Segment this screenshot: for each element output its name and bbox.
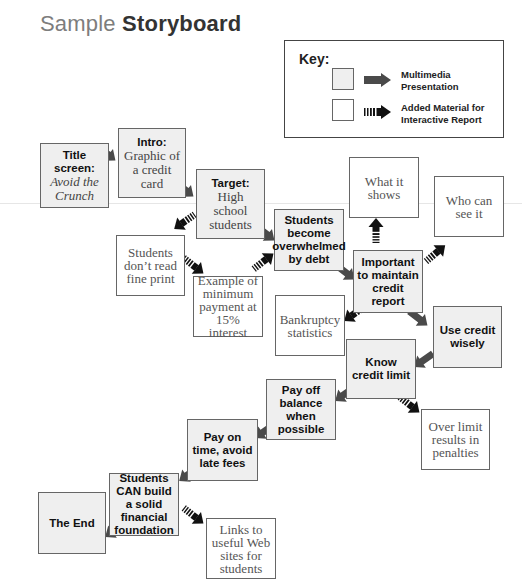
box-what-it-shows: What it shows xyxy=(349,157,419,218)
box-pay-on-time: Pay on time, avoid late fees xyxy=(187,419,258,481)
box-example: Example of minimum payment at 15% intere… xyxy=(193,276,263,337)
box-use-credit: Use credit wisely xyxy=(433,306,502,368)
box-overwhelmed: Students become overwhelmed by debt xyxy=(274,209,344,271)
box-know-limit: Know credit limit xyxy=(346,339,416,399)
box-who-can-see: Who can see it xyxy=(434,176,504,237)
box-important: Important to maintain credit report xyxy=(353,250,423,313)
arrow-important-to-what-it-shows xyxy=(369,218,384,243)
box-over-limit: Over limit results in penalties xyxy=(421,409,490,470)
arrow-important-to-who-can-see xyxy=(421,240,450,268)
box-target: Target:High school students xyxy=(196,169,265,239)
box-can-build: Students CAN build a solid financial fou… xyxy=(109,473,179,536)
arrow-can-build-to-links xyxy=(179,502,208,529)
arrow-target-to-dont-read xyxy=(170,208,199,235)
box-the-end: The End xyxy=(38,492,106,554)
box-bankruptcy: Bankruptcy statistics xyxy=(275,295,345,356)
box-dont-read: Students don’t read fine print xyxy=(116,235,185,296)
box-title-screen: Title screen:Avoid the Crunch xyxy=(40,143,109,208)
box-intro: Intro:Graphic of a credit card xyxy=(118,128,186,198)
box-pay-off: Pay off balance when possible xyxy=(266,379,336,440)
box-links: Links to useful Web sites for students xyxy=(206,518,276,579)
